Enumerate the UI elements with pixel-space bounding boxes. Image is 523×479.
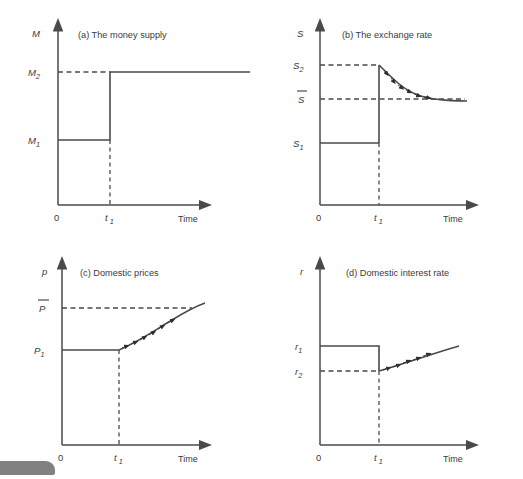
- y-tick-pbar: P: [38, 300, 49, 314]
- x-tick-origin: 0: [54, 212, 59, 223]
- panel-c-domestic-prices: (c) Domestic prices p P P1 0 t1 Time: [0, 240, 262, 479]
- panel-a-title: (a) The money supply: [78, 30, 167, 40]
- panel-d-title: (d) Domestic interest rate: [346, 268, 449, 278]
- x-tick-shock-time: t1: [374, 452, 383, 466]
- y-tick-r1: r1: [295, 341, 302, 355]
- panel-b-title: (b) The exchange rate: [342, 30, 432, 40]
- x-tick-shock-time: t1: [114, 452, 123, 466]
- panel-c-y-axis-label: p: [41, 266, 48, 277]
- x-axis-label: Time: [443, 214, 463, 224]
- series-money-supply: [58, 72, 250, 140]
- y-tick-r2: r2: [295, 366, 302, 380]
- motion-arrows-decay: [384, 70, 429, 98]
- y-tick-s2: S2: [293, 60, 303, 74]
- y-tick-sbar: S: [297, 91, 307, 105]
- panel-a-plot: (a) The money supply M M2 M1 0 t1 Time: [0, 0, 262, 240]
- caption-banner: [0, 461, 55, 475]
- panel-d-y-axis-label: r: [300, 266, 304, 277]
- panel-d-plot: (d) Domestic interest rate r r1 r2 0 t1 …: [262, 240, 523, 479]
- x-axis-label: Time: [178, 454, 198, 464]
- panel-d-domestic-interest-rate: (d) Domestic interest rate r r1 r2 0 t1 …: [262, 240, 523, 479]
- series-exchange-decay: [379, 65, 467, 101]
- svg-text:P: P: [39, 303, 46, 314]
- panel-b-plot: (b) The exchange rate S S2 S S1 0 t1 Tim…: [262, 0, 523, 240]
- y-tick-p1: P1: [34, 345, 44, 359]
- panel-b-y-axis-label: S: [297, 28, 304, 39]
- y-tick-m1: M1: [28, 135, 40, 149]
- x-tick-origin: 0: [58, 452, 63, 463]
- svg-text:S: S: [298, 94, 305, 105]
- panel-a-y-axis-label: M: [32, 28, 40, 39]
- y-tick-s1: S1: [293, 138, 303, 152]
- x-tick-shock-time: t1: [105, 212, 114, 226]
- panel-b-exchange-rate: (b) The exchange rate S S2 S S1 0 t1 Tim…: [262, 0, 523, 240]
- x-tick-shock-time: t1: [374, 212, 383, 226]
- panel-c-plot: (c) Domestic prices p P P1 0 t1 Time: [0, 240, 262, 479]
- economics-figure: (a) The money supply M M2 M1 0 t1 Time: [0, 0, 523, 479]
- x-tick-origin: 0: [316, 212, 321, 223]
- x-axis-label: Time: [443, 454, 463, 464]
- x-axis-label: Time: [178, 214, 198, 224]
- panel-c-title: (c) Domestic prices: [80, 268, 159, 278]
- panel-a-money-supply: (a) The money supply M M2 M1 0 t1 Time: [0, 0, 262, 240]
- series-interest-pre-shock: [320, 346, 379, 371]
- series-interest-rise: [379, 346, 459, 371]
- x-tick-origin: 0: [316, 452, 321, 463]
- y-tick-m2: M2: [28, 67, 40, 81]
